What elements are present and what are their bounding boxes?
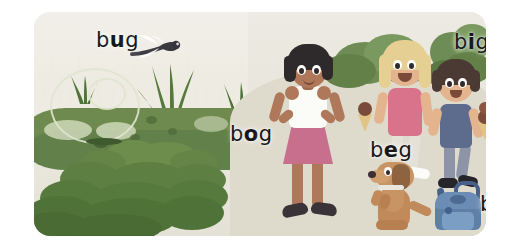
brown-hair-boy-figure [426,60,486,198]
lily-pad [86,138,122,145]
word-bog-prefix: b [230,122,244,146]
word-bog-suffix: g [259,122,273,146]
girl-figure [270,46,346,232]
illustration-card: bug bog beg big bag [34,12,486,236]
bog-spot-2 [168,128,177,135]
word-big-prefix: b [454,30,468,54]
bog-spot-1 [146,116,157,124]
word-bug-prefix: b [96,28,110,52]
begging-dog-figure [364,160,430,230]
word-label-bog: bog [230,122,273,146]
backpack-figure [432,182,484,234]
word-label-bug: bug [96,28,139,52]
word-beg-vowel: e [384,138,399,162]
illustration-card-stage: bug bog beg big bag [0,0,518,248]
word-beg-prefix: b [370,138,384,162]
word-label-bag: bag [480,192,486,216]
word-bug-suffix: g [125,28,139,52]
word-bug-vowel: u [110,28,125,52]
word-big-vowel: i [468,30,476,54]
word-label-beg: beg [370,138,412,162]
ripple-ring-small [88,78,126,110]
word-label-big: big [454,30,486,54]
word-bag-prefix: b [480,192,486,216]
word-beg-suffix: g [399,138,413,162]
word-bog-vowel: o [244,122,259,146]
word-big-suffix: g [476,30,486,54]
bog-highlight-3 [194,116,228,132]
